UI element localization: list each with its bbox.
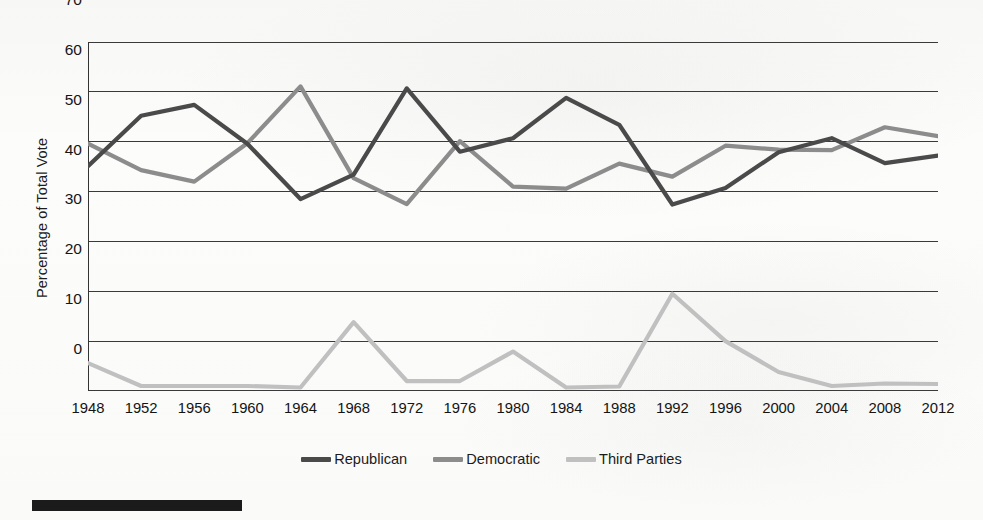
- plot-area: [88, 42, 938, 391]
- legend-swatch-icon: [433, 457, 463, 462]
- line-chart-figure: Percentage of Total Vote 010203040506070…: [0, 0, 983, 520]
- x-tick-label: 1948: [72, 401, 105, 416]
- y-tick-label: 10: [48, 291, 82, 307]
- footer-rule: [32, 500, 242, 511]
- x-tick-label: 1984: [550, 401, 583, 416]
- y-tick-label: 40: [48, 142, 82, 158]
- y-tick-label: 0: [48, 341, 82, 357]
- y-tick-label: 20: [48, 241, 82, 257]
- y-tick-label: 70: [48, 0, 82, 8]
- y-axis-tick-labels: 010203040506070: [40, 0, 82, 520]
- x-tick-label: 1968: [337, 401, 370, 416]
- x-tick-label: 1952: [125, 401, 158, 416]
- y-tick-label: 60: [48, 42, 82, 58]
- x-tick-label: 2000: [762, 401, 795, 416]
- x-tick-label: 2012: [922, 401, 955, 416]
- x-tick-label: 1976: [443, 401, 476, 416]
- chart-legend: RepublicanDemocraticThird Parties: [0, 452, 983, 467]
- x-tick-label: 1964: [284, 401, 317, 416]
- x-tick-label: 1956: [178, 401, 211, 416]
- y-tick-label: 30: [48, 191, 82, 207]
- gridlines: [88, 42, 938, 391]
- x-tick-label: 2004: [815, 401, 848, 416]
- x-tick-label: 1988: [603, 401, 636, 416]
- legend-item-republican[interactable]: Republican: [301, 452, 407, 467]
- x-axis-tick-labels: 1948195219561960196419681972197619801984…: [88, 401, 938, 425]
- legend-item-democratic[interactable]: Democratic: [433, 452, 540, 467]
- legend-label: Democratic: [466, 452, 540, 467]
- legend-label: Third Parties: [599, 452, 682, 467]
- x-tick-label: 1992: [656, 401, 689, 416]
- legend-swatch-icon: [566, 457, 596, 462]
- x-tick-label: 1980: [497, 401, 530, 416]
- x-tick-label: 1996: [709, 401, 742, 416]
- x-tick-label: 1972: [390, 401, 423, 416]
- plot-svg: [88, 42, 938, 391]
- y-tick-label: 50: [48, 92, 82, 108]
- data-series-lines: [88, 86, 938, 387]
- legend-label: Republican: [334, 452, 407, 467]
- legend-swatch-icon: [301, 457, 331, 462]
- x-tick-label: 2008: [868, 401, 901, 416]
- x-tick-label: 1960: [231, 401, 264, 416]
- legend-item-third-parties[interactable]: Third Parties: [566, 452, 682, 467]
